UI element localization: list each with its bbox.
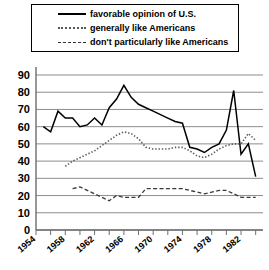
x-axis-ticks (36, 230, 256, 235)
gridlines (36, 75, 263, 230)
x-axis-tick-label: 1982 (221, 234, 243, 255)
y-axis-tick-label: 20 (18, 190, 30, 202)
line-chart: 0102030405060708090 19541958196219661970… (0, 58, 269, 270)
series-line-dashed (73, 187, 256, 201)
y-axis-tick-label: 60 (18, 121, 30, 133)
solid-line-icon (58, 13, 86, 15)
y-axis-tick-label: 80 (18, 86, 30, 98)
legend-item-label: generally like Americans (90, 24, 195, 33)
dashed-line-icon (58, 42, 86, 43)
y-axis-tick-label: 10 (18, 207, 30, 219)
data-series (43, 85, 255, 200)
y-axis-tick-label: 50 (18, 138, 30, 150)
x-axis-tick-label: 1970 (133, 234, 155, 255)
legend-item-generally-like: generally like Americans (58, 22, 195, 34)
x-axis-tick-label: 1954 (16, 234, 38, 255)
chart-plot-area: 0102030405060708090 19541958196219661970… (0, 58, 269, 270)
x-axis-tick-label: 1978 (191, 234, 213, 255)
dotted-line-icon (58, 27, 86, 29)
y-axis-tick-labels: 0102030405060708090 (18, 69, 30, 236)
x-axis-tick-labels: 19541958196219661970197419781982 (16, 234, 243, 255)
legend-item-label: favorable opinion of U.S. (90, 10, 196, 19)
chart-screenshot: favorable opinion of U.S. generally like… (0, 0, 269, 270)
y-axis-tick-label: 70 (18, 103, 30, 115)
y-axis-tick-label: 30 (18, 172, 30, 184)
chart-legend: favorable opinion of U.S. generally like… (31, 4, 239, 52)
y-axis-tick-label: 40 (18, 155, 30, 167)
x-axis-tick-label: 1966 (103, 234, 125, 255)
x-axis-tick-label: 1962 (74, 234, 96, 255)
x-axis-tick-label: 1958 (45, 234, 67, 255)
x-axis-tick-label: 1974 (162, 234, 184, 255)
legend-item-label: don't particularly like Americans (90, 38, 228, 47)
series-line-solid (43, 85, 255, 176)
legend-item-dont-particularly-like: don't particularly like Americans (58, 36, 228, 48)
y-axis-tick-label: 90 (18, 69, 30, 81)
legend-item-favorable-opinion: favorable opinion of U.S. (58, 8, 196, 20)
